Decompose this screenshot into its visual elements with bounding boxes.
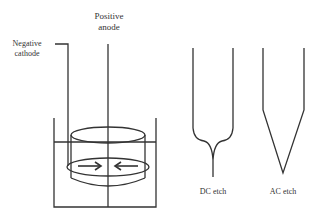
anode-label-line2: anode: [80, 22, 138, 33]
etching-diagram: [0, 0, 320, 215]
negative-cathode-label: Negative cathode: [4, 39, 50, 59]
ac-etch-tip: [263, 48, 304, 173]
anode-label-line1: Positive: [80, 11, 138, 22]
cathode-label-line2: cathode: [4, 49, 50, 59]
cathode-label-line1: Negative: [4, 39, 50, 49]
dc-etch-label: DC etch: [188, 187, 238, 197]
dc-etch-tip: [193, 48, 233, 177]
ac-etch-label: AC etch: [258, 187, 308, 197]
positive-anode-label: Positive anode: [80, 11, 138, 33]
cathode-wire: [55, 44, 68, 166]
